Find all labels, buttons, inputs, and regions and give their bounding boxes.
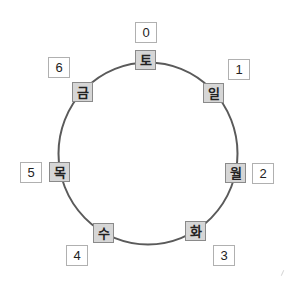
index-box-4: 4 xyxy=(66,245,88,266)
index-box-5: 5 xyxy=(20,162,42,183)
day-box-tuesday: 화 xyxy=(185,221,206,241)
day-box-thursday: 목 xyxy=(49,162,70,182)
index-box-2: 2 xyxy=(252,163,274,184)
index-box-0: 0 xyxy=(135,22,157,43)
day-box-friday: 금 xyxy=(72,82,93,102)
index-box-3: 3 xyxy=(213,245,235,266)
index-box-6: 6 xyxy=(48,57,70,78)
day-cycle-diagram: 0 토 1 일 월 2 화 3 수 4 5 목 6 금 xyxy=(0,0,294,285)
day-box-saturday: 토 xyxy=(135,50,156,70)
day-box-monday: 월 xyxy=(225,163,246,183)
day-box-sunday: 일 xyxy=(203,83,224,103)
day-box-wednesday: 수 xyxy=(93,223,114,243)
index-box-1: 1 xyxy=(228,59,250,80)
